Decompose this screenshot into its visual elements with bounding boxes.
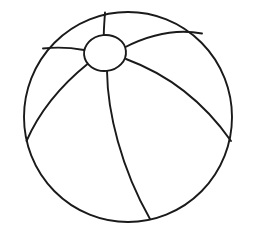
artboard (0, 0, 253, 236)
ball-interior-fill (24, 12, 232, 222)
beach-ball-illustration (0, 0, 253, 236)
